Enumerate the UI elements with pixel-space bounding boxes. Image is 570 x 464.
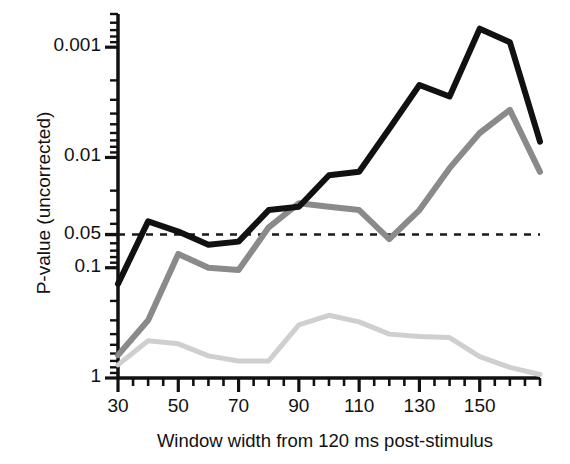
- y-tick-label: 1: [90, 365, 101, 387]
- figure-container: P-value (uncorrected) Window width from …: [0, 0, 570, 464]
- series-light-gray-curve: [118, 315, 540, 374]
- y-tick-label: 0.001: [53, 34, 101, 56]
- y-tick-label: 0.1: [75, 255, 101, 277]
- x-axis-label: Window width from 120 ms post-stimulus: [100, 430, 550, 452]
- y-axis-label: P-value (uncorrected): [33, 63, 55, 343]
- y-tick-label: 0.05: [64, 222, 101, 244]
- y-tick-label: 0.01: [64, 144, 101, 166]
- series-black-curve: [118, 29, 540, 284]
- x-tick-label: 150: [380, 395, 570, 417]
